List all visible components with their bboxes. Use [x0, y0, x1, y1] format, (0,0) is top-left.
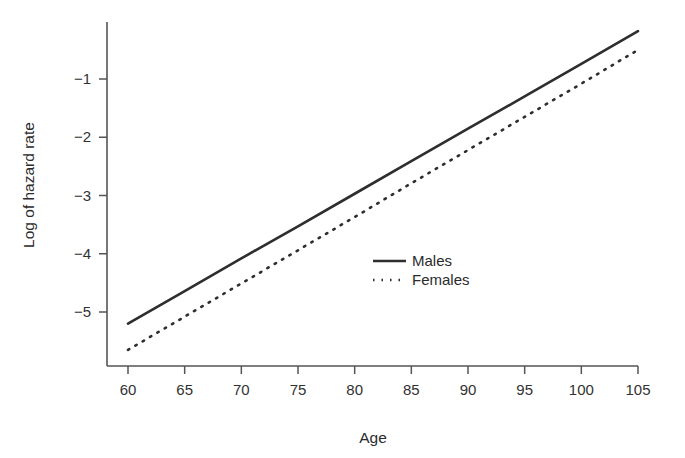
- x-tick-label: 75: [290, 381, 307, 398]
- y-tick-label: −5: [74, 303, 91, 320]
- x-tick-label: 90: [460, 381, 477, 398]
- y-tick-label: −1: [74, 70, 91, 87]
- x-tick-label: 80: [346, 381, 363, 398]
- x-axis-ticks: [128, 366, 638, 374]
- series-line-females: [128, 50, 638, 350]
- x-axis-title: Age: [359, 429, 387, 446]
- y-axis-ticks: [99, 79, 107, 312]
- x-tick-label: 105: [625, 381, 650, 398]
- x-tick-label: 65: [176, 381, 193, 398]
- chart-legend: MalesFemales: [373, 252, 470, 288]
- x-axis-tick-labels: 6065707580859095100105: [120, 381, 651, 398]
- legend-label-females: Females: [412, 271, 470, 288]
- x-tick-label: 60: [120, 381, 137, 398]
- line-chart: −1−2−3−4−5 6065707580859095100105 Age Lo…: [0, 0, 685, 458]
- x-tick-label: 85: [403, 381, 420, 398]
- y-tick-label: −4: [74, 245, 91, 262]
- legend-label-males: Males: [412, 252, 452, 269]
- data-series-group: [128, 31, 638, 350]
- y-tick-label: −2: [74, 128, 91, 145]
- x-tick-label: 95: [516, 381, 533, 398]
- y-axis-title: Log of hazard rate: [20, 122, 37, 248]
- chart-container: −1−2−3−4−5 6065707580859095100105 Age Lo…: [0, 0, 685, 458]
- x-tick-label: 100: [569, 381, 594, 398]
- y-axis-tick-labels: −1−2−3−4−5: [74, 70, 91, 320]
- y-tick-label: −3: [74, 187, 91, 204]
- x-tick-label: 70: [233, 381, 250, 398]
